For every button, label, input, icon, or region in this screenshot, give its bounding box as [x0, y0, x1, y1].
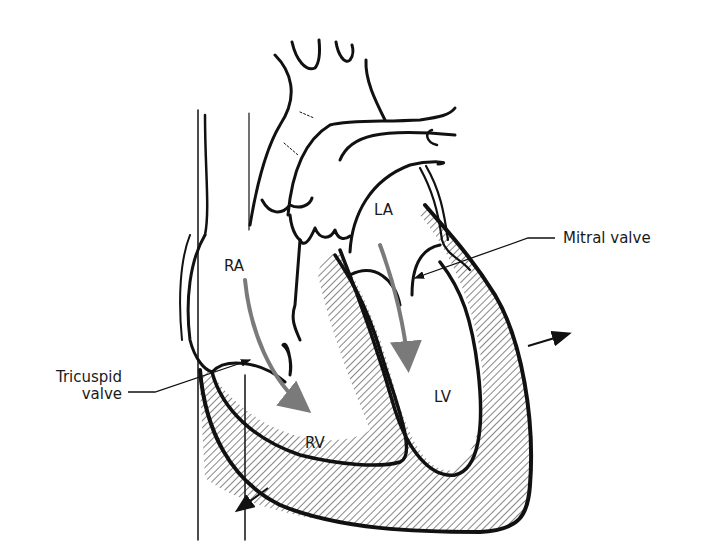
tricuspid-label-line1: Tricuspid	[30, 369, 122, 386]
heart-illustration	[0, 0, 701, 551]
tricuspid-leader	[128, 360, 250, 392]
tricuspid-valve-label: Tricuspid valve	[30, 369, 122, 402]
lv-outward-arrow	[528, 334, 568, 346]
label-la: LA	[374, 202, 393, 219]
mitral-valve-label: Mitral valve	[563, 230, 651, 247]
tricuspid-label-line2: valve	[30, 386, 122, 403]
label-rv: RV	[305, 435, 325, 452]
la-to-lv-flow-arrow	[380, 245, 408, 365]
heart-diagram: RA LA RV LV Tricuspid valve Mitral valve	[0, 0, 701, 551]
label-lv: LV	[434, 389, 451, 406]
label-ra: RA	[224, 258, 244, 275]
mitral-leader	[415, 238, 555, 278]
